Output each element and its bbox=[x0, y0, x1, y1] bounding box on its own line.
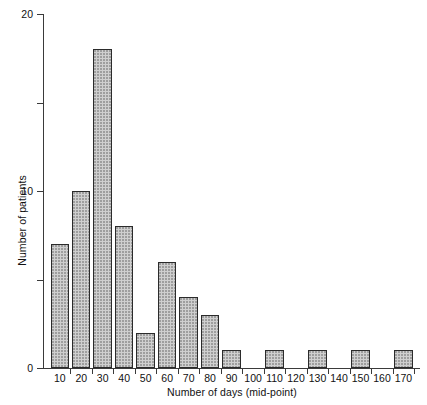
bar bbox=[394, 350, 412, 368]
bar bbox=[308, 350, 326, 368]
y-axis-tick-label-text: 10 bbox=[7, 186, 33, 196]
bar bbox=[351, 350, 369, 368]
y-axis-tick-label-text: 0 bbox=[7, 363, 33, 373]
y-axis-tick-label: 0 bbox=[7, 363, 33, 373]
bar bbox=[115, 226, 133, 368]
x-axis-tick-label: 170 bbox=[388, 372, 418, 384]
bar bbox=[222, 350, 240, 368]
y-axis-tick bbox=[37, 191, 44, 192]
bar bbox=[158, 262, 176, 368]
y-axis-tick bbox=[37, 103, 44, 104]
bar bbox=[136, 333, 154, 368]
plot-area: 0102010203040506070809010011012013014015… bbox=[0, 0, 427, 405]
y-axis-tick bbox=[37, 368, 44, 369]
bar bbox=[51, 244, 69, 368]
y-axis-tick-label-text: 20 bbox=[7, 9, 33, 19]
bar bbox=[72, 191, 90, 368]
bar bbox=[265, 350, 283, 368]
x-axis-label: Number of days (mid-point) bbox=[44, 386, 420, 398]
bar bbox=[179, 297, 197, 368]
y-axis-tick bbox=[37, 280, 44, 281]
histogram-chart: Number of patients 010201020304050607080… bbox=[0, 0, 427, 405]
y-axis-tick bbox=[37, 14, 44, 15]
y-axis-tick-label: 20 bbox=[7, 9, 33, 19]
bar bbox=[93, 49, 111, 368]
y-axis-tick-label: 10 bbox=[7, 186, 33, 196]
bar bbox=[201, 315, 219, 368]
